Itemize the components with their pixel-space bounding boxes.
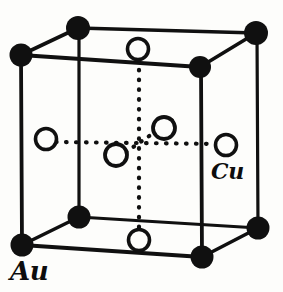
cu-atom-front-face <box>105 144 127 166</box>
au-element-label: Au <box>10 258 48 284</box>
cu-atom-bottom-face <box>129 230 150 251</box>
cu-element-label: Cu <box>211 160 244 182</box>
cu-atom-top-face <box>128 39 149 60</box>
au-atom-back-bottom-right <box>247 217 270 240</box>
au-atom-front-top-left <box>10 44 33 67</box>
edge-back-bottom <box>79 217 258 228</box>
cu-atom-back-face <box>153 117 175 139</box>
edge-front-bottom <box>22 245 202 257</box>
au-atom-back-top-right <box>244 21 268 45</box>
edge-back-right <box>257 33 258 228</box>
cu-atom-right-face <box>216 135 237 156</box>
crystal-structure-figure: Au Cu <box>0 0 283 292</box>
unit-cell-drawing <box>0 0 283 292</box>
edge-front-left <box>21 55 22 245</box>
au-atom-back-top-left <box>66 16 90 40</box>
cu-atom-left-face <box>36 129 57 150</box>
edge-front-top <box>21 55 200 67</box>
au-atom-front-top-right <box>189 56 211 78</box>
edge-back-top <box>78 28 256 33</box>
au-atom-front-bottom-left <box>11 234 34 257</box>
edge-front-right <box>201 67 202 257</box>
au-atom-back-bottom-left <box>68 206 91 229</box>
au-atom-front-bottom-right <box>191 246 214 269</box>
